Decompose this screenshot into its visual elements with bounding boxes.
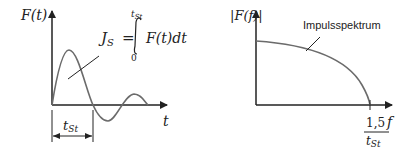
y-axis-label-force: F(t) xyxy=(20,7,47,23)
y-axis-label-spectrum: |F(f)| xyxy=(230,8,263,23)
impulse-spectrum-diagram: Impulsspektrum |F(f)| f 1,5 tSt xyxy=(230,8,395,149)
x-axis-label-frequency: f xyxy=(386,114,395,130)
cutoff-frequency-label: 1,5 tSt xyxy=(364,116,389,149)
diagram-canvas: F(t) JS = tSt 0 F(t)dt t tSt Impulsspekt… xyxy=(0,0,414,155)
cutoff-denominator: tSt xyxy=(366,134,381,149)
impulse-integral-formula: JS = tSt 0 F(t)dt xyxy=(98,9,187,63)
pulse-duration-bracket: tSt xyxy=(52,110,93,142)
curve-label-impulsspektrum: Impulsspektrum xyxy=(303,19,381,31)
impulse-spectrum-curve xyxy=(256,41,370,105)
integral-sign xyxy=(134,18,141,54)
integral-upper-limit: tSt xyxy=(131,9,142,21)
spectrum-pointer-line xyxy=(306,37,320,51)
integral-equals: = xyxy=(122,29,135,47)
force-time-diagram: F(t) JS = tSt 0 F(t)dt t tSt xyxy=(20,7,187,142)
integral-lhs: JS xyxy=(98,29,114,48)
duration-label: tSt xyxy=(63,118,78,134)
cutoff-numerator: 1,5 xyxy=(366,116,385,130)
integral-integrand: F(t)dt xyxy=(145,30,187,46)
integral-lower-limit: 0 xyxy=(131,53,137,63)
x-axis-label-time: t xyxy=(163,113,169,129)
